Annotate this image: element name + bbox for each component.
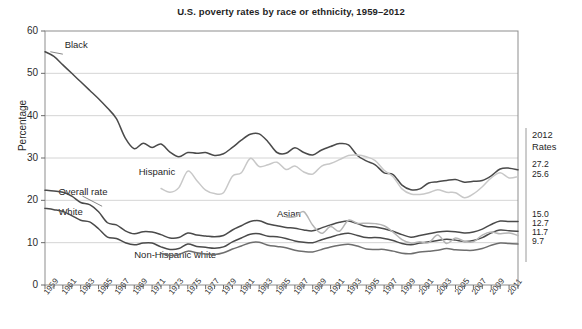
- series-line-hispanic: [161, 155, 518, 198]
- annotation-leader-line: [82, 196, 102, 206]
- annotation-leader-line: [50, 52, 62, 54]
- series-line-overall-rate: [45, 190, 518, 238]
- series-line-black: [45, 52, 518, 190]
- poverty-rate-chart: U.S. poverty rates by race or ethnicity,…: [0, 0, 582, 329]
- plot-area: [0, 0, 582, 329]
